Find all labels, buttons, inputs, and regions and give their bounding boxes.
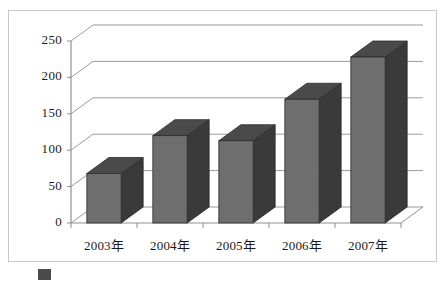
bar-2003年: [87, 157, 143, 223]
y-tick-label: 150: [22, 105, 62, 121]
y-tick-label: 0: [22, 214, 62, 230]
caption-marker-icon: [38, 269, 51, 280]
bar-2007年: [351, 41, 407, 223]
column-chart-3d: [9, 11, 438, 263]
x-category-label: 2005年: [199, 235, 273, 254]
screenshot-root: 050100150200250 2003年2004年2005年2006年2007…: [0, 0, 447, 283]
x-category-label: 2004年: [133, 235, 207, 254]
bar-2006年: [285, 83, 341, 223]
x-category-label: 2007年: [331, 235, 405, 254]
bar-2005年: [219, 125, 275, 223]
y-tick-label: 100: [22, 141, 62, 157]
y-tick-label: 200: [22, 68, 62, 84]
x-category-label: 2006年: [265, 235, 339, 254]
x-category-label: 2003年: [67, 235, 141, 254]
y-tick-label: 50: [22, 178, 62, 194]
y-tick-label: 250: [22, 32, 62, 48]
bars-layer: [87, 41, 407, 223]
figure-caption: [0, 266, 447, 283]
bar-2004年: [153, 120, 209, 223]
chart-frame: 050100150200250 2003年2004年2005年2006年2007…: [8, 10, 437, 262]
